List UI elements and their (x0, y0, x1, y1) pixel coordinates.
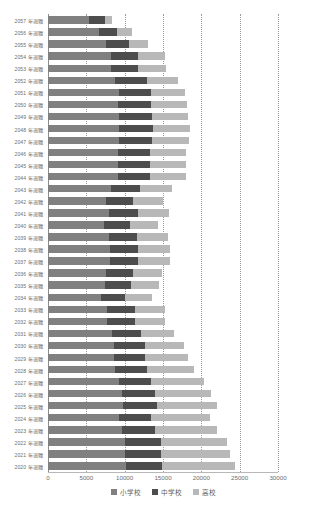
bar-segment-小学校 (48, 257, 110, 264)
bar-segment-中学校 (125, 450, 160, 457)
bar-row (48, 294, 278, 301)
bar-segment-高校 (147, 77, 178, 84)
y-axis-label: 2051 年退職 (14, 89, 43, 96)
bar-row (48, 197, 278, 204)
bar-segment-小学校 (48, 450, 125, 457)
bar-segment-高校 (151, 414, 209, 421)
bar-segment-小学校 (48, 390, 122, 397)
bar-segment-小学校 (48, 221, 104, 228)
bar-row (48, 173, 278, 180)
y-axis-label: 2052 年退職 (14, 77, 43, 84)
bar-row (48, 354, 278, 361)
x-axis-ticks: 050001000015000200002500030000 (48, 474, 278, 486)
chart-legend: 小学校中学校高校 (0, 487, 326, 497)
bar-row (48, 77, 278, 84)
bar-row (48, 426, 278, 433)
bar-segment-中学校 (119, 137, 152, 144)
legend-swatch-icon (111, 489, 117, 495)
bar-segment-中学校 (106, 269, 133, 276)
bar-segment-中学校 (123, 402, 157, 409)
bar-row (48, 101, 278, 108)
y-axis-label: 2046 年退職 (14, 149, 43, 156)
y-axis-label: 2057 年退職 (14, 17, 43, 24)
bar-segment-中学校 (105, 281, 131, 288)
bar-segment-高校 (130, 221, 158, 228)
legend-item-高校[interactable]: 高校 (193, 487, 216, 497)
y-axis-label: 2023 年退職 (14, 426, 43, 433)
x-axis-line (48, 472, 278, 473)
bar-segment-高校 (138, 257, 169, 264)
y-axis-label: 2028 年退職 (14, 366, 43, 373)
legend-label: 中学校 (161, 487, 182, 497)
y-axis-label: 2024 年退職 (14, 414, 43, 421)
bar-row (48, 281, 278, 288)
y-axis-label: 2054 年退職 (14, 53, 43, 60)
bar-segment-小学校 (48, 318, 107, 325)
bar-segment-小学校 (48, 65, 111, 72)
bar-segment-高校 (150, 161, 186, 168)
bar-row (48, 28, 278, 35)
bar-segment-中学校 (115, 366, 146, 373)
bar-segment-高校 (155, 390, 211, 397)
bar-segment-小学校 (48, 40, 106, 47)
bar-segment-小学校 (48, 281, 105, 288)
bar-segment-小学校 (48, 209, 109, 216)
bar-row (48, 414, 278, 421)
bar-row (48, 161, 278, 168)
bar-segment-中学校 (111, 185, 140, 192)
bar-segment-高校 (145, 354, 188, 361)
bar-segment-高校 (162, 462, 235, 469)
bar-segment-中学校 (119, 125, 153, 132)
bar-row (48, 233, 278, 240)
bar-segment-小学校 (48, 402, 123, 409)
bar-segment-高校 (129, 40, 149, 47)
bar-segment-高校 (152, 113, 188, 120)
bar-segment-小学校 (48, 269, 106, 276)
bar-segment-高校 (151, 101, 186, 108)
y-axis-label: 2027 年退職 (14, 378, 43, 385)
bar-segment-小学校 (48, 378, 119, 385)
bar-segment-小学校 (48, 306, 107, 313)
y-axis-label: 2040 年退職 (14, 221, 43, 228)
bar-segment-高校 (145, 342, 184, 349)
bar-segment-小学校 (48, 101, 118, 108)
bar-segment-小学校 (48, 137, 119, 144)
bar-segment-中学校 (112, 330, 141, 337)
y-axis-label: 2025 年退職 (14, 402, 43, 409)
bar-segment-小学校 (48, 294, 101, 301)
bar-row (48, 462, 278, 469)
bar-segment-高校 (140, 185, 172, 192)
bar-segment-中学校 (110, 245, 138, 252)
bar-segment-中学校 (106, 197, 133, 204)
bar-row (48, 16, 278, 23)
y-axis-label: 2043 年退職 (14, 185, 43, 192)
bar-segment-中学校 (119, 378, 151, 385)
bar-segment-中学校 (126, 462, 162, 469)
stacked-bar-chart: 2057 年退職2056 年退職2055 年退職2054 年退職2053 年退職… (0, 0, 326, 512)
bar-segment-小学校 (48, 149, 118, 156)
bar-segment-高校 (141, 330, 175, 337)
bar-segment-高校 (151, 378, 203, 385)
y-axis-label: 2053 年退職 (14, 65, 43, 72)
bar-row (48, 149, 278, 156)
bar-segment-高校 (105, 16, 113, 23)
bar-segment-中学校 (122, 426, 156, 433)
legend-item-小学校[interactable]: 小学校 (111, 487, 141, 497)
bar-segment-中学校 (118, 161, 150, 168)
bar-segment-高校 (135, 306, 166, 313)
legend-item-中学校[interactable]: 中学校 (152, 487, 182, 497)
y-axis-label: 2050 年退職 (14, 101, 43, 108)
x-axis-tick-label: 15000 (154, 474, 171, 481)
bar-segment-高校 (161, 450, 231, 457)
x-axis-tick-label: 20000 (193, 474, 210, 481)
bar-segment-小学校 (48, 366, 115, 373)
legend-swatch-icon (152, 489, 158, 495)
y-axis-label: 2044 年退職 (14, 173, 43, 180)
bar-row (48, 209, 278, 216)
bar-segment-高校 (155, 426, 217, 433)
bar-segment-中学校 (118, 149, 150, 156)
bar-row (48, 438, 278, 445)
bar-segment-小学校 (48, 197, 106, 204)
bar-segment-小学校 (48, 52, 111, 59)
bar-row (48, 40, 278, 47)
